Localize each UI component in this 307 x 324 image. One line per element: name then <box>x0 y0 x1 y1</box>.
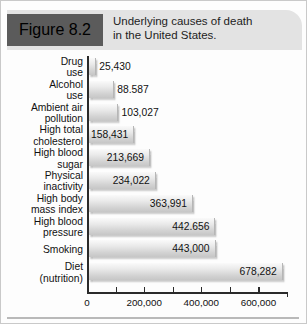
bar-row: Alcoholuse88.587 <box>1 79 307 102</box>
bar: 443,000 <box>88 240 215 257</box>
x-axis-tick-label: 200,000 <box>126 297 161 308</box>
bar: 363,991 <box>88 195 192 212</box>
x-axis-minor-tick <box>230 287 231 292</box>
bar-value-label: 88.587 <box>113 81 149 98</box>
x-axis-tick <box>144 287 145 293</box>
x-axis-minor-tick <box>116 287 117 292</box>
x-axis-tick <box>201 287 202 293</box>
bar-chart: Druguse25,430Alcoholuse88.587Ambient air… <box>1 56 307 308</box>
bar-value-label: 442.656 <box>172 218 209 235</box>
bar-value-label: 213,669 <box>107 149 144 166</box>
figure-header: Figure 8.2 Underlying causes of death in… <box>7 10 302 50</box>
bar-row: High totalcholesterol158,431 <box>1 124 307 147</box>
bar-value-label: 678,282 <box>240 263 277 280</box>
bar-category-label: Druguse <box>5 56 83 79</box>
bar-category-label: Physicalinactivity <box>5 170 83 193</box>
bar-category-label: Alcoholuse <box>5 79 83 102</box>
figure-caption: Underlying causes of death in the United… <box>113 14 293 42</box>
bar-value-label: 103,027 <box>117 104 158 121</box>
bar-fill <box>88 81 114 98</box>
bar-row: High bloodsugar213,669 <box>1 147 307 170</box>
bar: 103,027 <box>88 104 117 121</box>
bar-category-label: Diet(nutrition) <box>5 261 83 284</box>
bar: 442.656 <box>88 218 214 235</box>
x-axis-tick <box>87 287 88 293</box>
figure-caption-line-2: in the United States. <box>113 28 293 42</box>
bar-row: Druguse25,430 <box>1 56 307 79</box>
y-axis-line <box>87 56 89 293</box>
bar-value-label: 443,000 <box>172 240 209 257</box>
bar: 25,430 <box>88 58 95 75</box>
bar-row: High bodymass index363,991 <box>1 193 307 216</box>
bar-category-label: High totalcholesterol <box>5 124 83 147</box>
bar-value-label: 363,991 <box>150 195 187 212</box>
bar-row: Diet(nutrition)678,282 <box>1 261 307 284</box>
bar-category-label: Smoking <box>5 238 83 261</box>
figure-container: Figure 8.2 Underlying causes of death in… <box>0 0 307 324</box>
bar-value-label: 25,430 <box>95 58 131 75</box>
bar: 158,431 <box>88 126 133 143</box>
bar-row: Ambient airpollution103,027 <box>1 102 307 125</box>
bar-fill <box>88 104 118 121</box>
bar-category-label: Ambient airpollution <box>5 102 83 125</box>
bar-row: High bloodpressure442.656 <box>1 216 307 239</box>
bar-row: Physicalinactivity234,022 <box>1 170 307 193</box>
x-axis-minor-tick <box>173 287 174 292</box>
x-axis-tick <box>258 287 259 293</box>
bar-row: Smoking443,000 <box>1 238 307 261</box>
x-axis-tick-label: 600,000 <box>241 297 276 308</box>
bar-category-label: High bodymass index <box>5 193 83 216</box>
bar-category-label: High bloodsugar <box>5 147 83 170</box>
x-axis-tick-label: 0 <box>84 297 89 308</box>
bar-category-label: High bloodpressure <box>5 216 83 239</box>
bar: 88.587 <box>88 81 113 98</box>
figure-number-badge: Figure 8.2 <box>7 14 103 46</box>
figure-number-label: Figure 8.2 <box>19 21 91 39</box>
bar-value-label: 234,022 <box>113 172 150 189</box>
bar: 213,669 <box>88 149 149 166</box>
bar: 234,022 <box>88 172 155 189</box>
x-axis-end-tick <box>287 292 288 297</box>
bar-value-label: 158,431 <box>91 126 128 143</box>
figure-bottom-rule <box>7 317 299 319</box>
figure-caption-line-1: Underlying causes of death <box>113 14 293 28</box>
x-axis-tick-label: 400,000 <box>184 297 219 308</box>
bar: 678,282 <box>88 263 282 280</box>
